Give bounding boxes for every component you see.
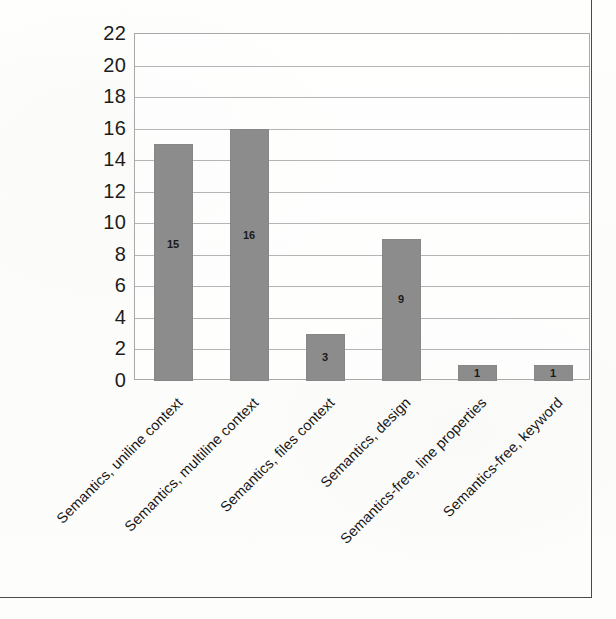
bar-data-label: 1 bbox=[550, 367, 556, 379]
gridline bbox=[135, 223, 589, 224]
bar bbox=[230, 129, 269, 381]
bar-data-label: 15 bbox=[167, 238, 179, 250]
y-axis-tick-label: 8 bbox=[82, 242, 126, 265]
y-axis-tick-label: 0 bbox=[82, 369, 126, 392]
plot-area: 15163911 bbox=[134, 33, 590, 380]
gridline bbox=[135, 318, 589, 319]
y-axis-tick-label: 12 bbox=[82, 179, 126, 202]
y-axis-tick-label: 22 bbox=[82, 22, 126, 45]
y-axis-tick-label: 10 bbox=[82, 211, 126, 234]
gridline bbox=[135, 66, 589, 67]
y-axis-tick-label: 6 bbox=[82, 274, 126, 297]
bar-data-label: 16 bbox=[243, 229, 255, 241]
gridline bbox=[135, 192, 589, 193]
gridline bbox=[135, 160, 589, 161]
y-axis-tick-label: 14 bbox=[82, 148, 126, 171]
gridline bbox=[135, 286, 589, 287]
y-axis-tick-label: 16 bbox=[82, 116, 126, 139]
x-axis-category-label: Semantics, uniline context bbox=[47, 394, 186, 533]
bar-data-label: 3 bbox=[322, 351, 328, 363]
y-axis-tick-label: 2 bbox=[82, 337, 126, 360]
y-axis-tick-label: 18 bbox=[82, 85, 126, 108]
bar-data-label: 1 bbox=[474, 367, 480, 379]
gridline bbox=[135, 129, 589, 130]
bar-chart: 15163911 0246810121416182022 Semantics, … bbox=[0, 0, 616, 619]
gridline bbox=[135, 255, 589, 256]
bar bbox=[154, 144, 193, 381]
gridline bbox=[135, 349, 589, 350]
bar bbox=[382, 239, 421, 381]
y-axis-tick-label: 4 bbox=[82, 305, 126, 328]
y-axis-tick-label: 20 bbox=[82, 53, 126, 76]
gridline bbox=[135, 97, 589, 98]
bar-data-label: 9 bbox=[398, 293, 404, 305]
